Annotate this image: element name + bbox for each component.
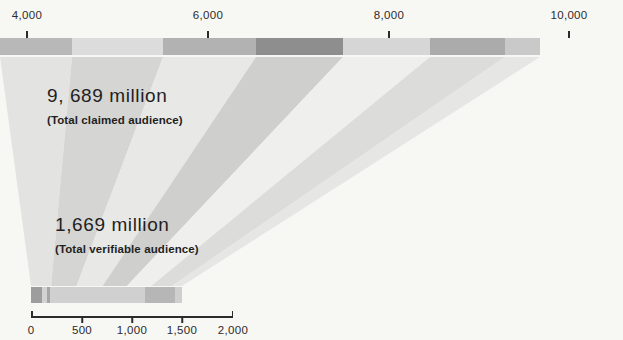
claimed-audience-segment[interactable]: [72, 38, 163, 55]
bottom-axis-tick-label-1000: 1,000: [117, 324, 147, 336]
bottom-axis-tick-label-500: 500: [72, 324, 92, 336]
bottom-axis-tick-label-0: 0: [28, 324, 35, 336]
claimed-audience-segment[interactable]: [343, 38, 430, 55]
bottom-axis-tick-label-1500: 1,500: [167, 324, 197, 336]
top-axis-tick-mark-10000: [568, 31, 570, 38]
verifiable-audience-segment[interactable]: [31, 287, 42, 303]
top-axis-tick-label-10000: 10,000: [551, 9, 588, 21]
bottom-axis-tick-mark-500: [81, 317, 83, 323]
top-axis-tick-mark-4000: [26, 31, 28, 38]
total-claimed-audience-bar[interactable]: [0, 38, 540, 55]
verifiable-audience-segment[interactable]: [175, 287, 182, 303]
total-verifiable-audience-bar[interactable]: [31, 287, 182, 303]
claimed-audience-callout: 9, 689 million (Total claimed audience): [47, 85, 183, 126]
top-axis-tick-label-4000: 4,000: [12, 9, 42, 21]
top-axis-tick-label-8000: 8,000: [374, 9, 404, 21]
funnel-chart-canvas: 4,000 6,000 8,000 10,000 9, 689 million …: [0, 0, 623, 340]
verifiable-audience-callout: 1,669 million (Total verifiable audience…: [55, 214, 199, 255]
funnel-ribbon: [151, 57, 505, 286]
verifiable-audience-segment[interactable]: [50, 287, 145, 303]
claimed-audience-value: 9, 689 million: [47, 85, 183, 107]
verifiable-audience-caption: (Total verifiable audience): [55, 243, 199, 255]
top-axis-tick-mark-6000: [207, 31, 209, 38]
bottom-axis-tick-label-2000: 2,000: [218, 324, 248, 336]
claimed-audience-segment[interactable]: [0, 38, 72, 55]
claimed-audience-segment[interactable]: [256, 38, 343, 55]
bottom-axis-cap-right: [232, 311, 234, 317]
verifiable-audience-segment[interactable]: [145, 287, 175, 303]
top-axis-tick-label-6000: 6,000: [193, 9, 223, 21]
claimed-audience-segment[interactable]: [505, 38, 540, 55]
claimed-audience-segment[interactable]: [430, 38, 505, 55]
top-axis-tick-mark-8000: [388, 31, 390, 38]
bottom-axis-cap-left: [31, 311, 33, 317]
claimed-audience-caption: (Total claimed audience): [47, 114, 183, 126]
claimed-audience-segment[interactable]: [163, 38, 256, 55]
verifiable-audience-value: 1,669 million: [55, 214, 199, 236]
bottom-axis-tick-mark-1500: [181, 317, 183, 323]
funnel-ribbon: [172, 57, 540, 286]
bottom-axis-tick-mark-1000: [131, 317, 133, 323]
